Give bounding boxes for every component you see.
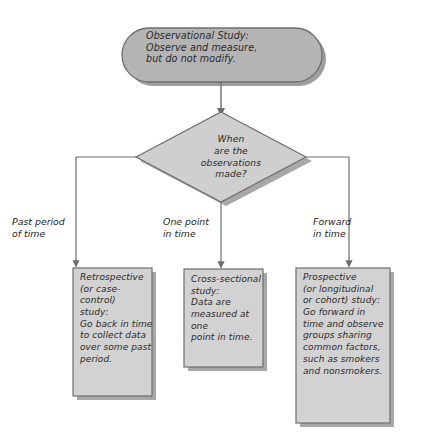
- start-node-label: Observational Study: Observe and measure…: [136, 30, 332, 65]
- flowchart-shapes: [0, 0, 441, 446]
- cross-sectional-box-label: Cross-sectional study: Data are measured…: [191, 274, 265, 344]
- retrospective-box-label: Retrospective (or case-control) study: G…: [80, 272, 154, 366]
- decision-node-label: When are the observations made?: [180, 133, 282, 180]
- prospective-box-label: Prospective (or longitudinal or cohort) …: [303, 272, 389, 377]
- flowchart-canvas: Observational Study: Observe and measure…: [0, 0, 441, 446]
- edge-label-forward: Forward in time: [313, 216, 351, 240]
- edge-label-past-period: Past period of time: [12, 216, 65, 240]
- edge-label-one-point: One point in time: [163, 216, 209, 240]
